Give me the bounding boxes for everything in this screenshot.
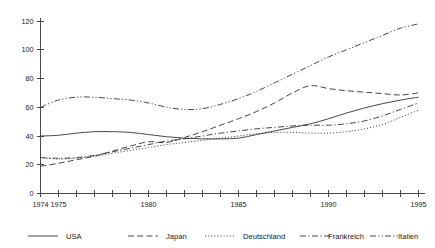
x-tick-label: 1975	[51, 200, 67, 209]
series-line-usa	[41, 97, 419, 139]
y-tick-label: 80	[26, 74, 34, 83]
series-line-japan	[41, 86, 419, 167]
y-tick-label: 60	[26, 103, 34, 112]
legend-label-japan: Japan	[166, 232, 187, 241]
y-tick-label: 20	[26, 160, 34, 169]
line-chart: 020406080100120 197419751980198519901995…	[0, 0, 435, 248]
y-tick-label: 120	[22, 17, 34, 26]
x-tick-label: 1985	[231, 200, 247, 209]
series-line-deutschland	[41, 110, 419, 159]
x-tick-label: 1974	[33, 200, 49, 209]
chart-legend: USAJapanDeutschlandFrankreichItalien	[28, 232, 418, 241]
legend-label-usa: USA	[66, 232, 83, 241]
series-line-italien	[41, 24, 419, 110]
legend-label-deutschland: Deutschland	[243, 232, 285, 241]
x-axis-ticks: 197419751980198519901995	[33, 190, 427, 209]
y-tick-label: 40	[26, 132, 34, 141]
x-tick-label: 1995	[411, 200, 427, 209]
legend-label-frankreich: Frankreich	[328, 232, 364, 241]
y-tick-label: 0	[30, 189, 34, 198]
y-tick-label: 100	[22, 45, 34, 54]
x-tick-label: 1980	[141, 200, 157, 209]
data-series-group	[41, 24, 419, 166]
series-line-frankreich	[41, 103, 419, 158]
x-tick-label: 1990	[321, 200, 337, 209]
chart-canvas: 020406080100120 197419751980198519901995…	[0, 0, 435, 248]
legend-label-italien: Italien	[398, 232, 418, 241]
